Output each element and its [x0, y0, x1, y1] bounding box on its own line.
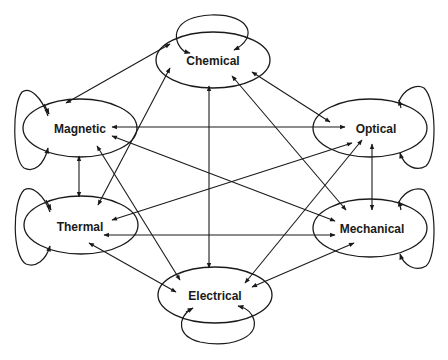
- self-loop-chemical: [176, 15, 248, 52]
- energy-coupling-diagram: Chemical Magnetic Optical Thermal Mechan…: [0, 0, 448, 360]
- node-electrical: Electrical: [158, 267, 272, 323]
- edge-magnetic-mechanical: [112, 136, 335, 221]
- node-thermal: Thermal: [24, 196, 138, 254]
- node-label-thermal: Thermal: [57, 220, 104, 234]
- node-label-electrical: Electrical: [188, 289, 241, 303]
- self-loop-thermal: [15, 189, 50, 265]
- edge-magnetic-electrical: [97, 146, 180, 280]
- edge-thermal-electrical: [89, 243, 176, 292]
- node-label-mechanical: Mechanical: [340, 222, 405, 236]
- self-loop-magnetic: [15, 90, 48, 169]
- edge-chemical-magnetic: [66, 44, 170, 103]
- edges: [66, 44, 372, 292]
- node-mechanical: Mechanical: [313, 199, 427, 257]
- self-loop-mechanical-start: [399, 201, 401, 210]
- self-loop-chemical-start: [186, 52, 190, 53]
- edge-chemical-optical: [252, 72, 330, 122]
- node-magnetic: Magnetic: [23, 99, 137, 157]
- self-loop-electrical: [181, 306, 254, 344]
- node-chemical: Chemical: [156, 32, 270, 88]
- node-label-optical: Optical: [356, 122, 397, 136]
- self-loop-optical: [399, 87, 434, 169]
- self-loop-electrical-start: [186, 308, 193, 312]
- node-label-magnetic: Magnetic: [54, 122, 106, 136]
- edge-mechanical-electrical: [252, 243, 354, 287]
- nodes: Chemical Magnetic Optical Thermal Mechan…: [23, 32, 427, 323]
- edge-optical-thermal: [112, 143, 352, 220]
- edge-optical-electrical: [245, 140, 362, 283]
- node-optical: Optical: [313, 99, 427, 157]
- node-label-chemical: Chemical: [186, 54, 239, 68]
